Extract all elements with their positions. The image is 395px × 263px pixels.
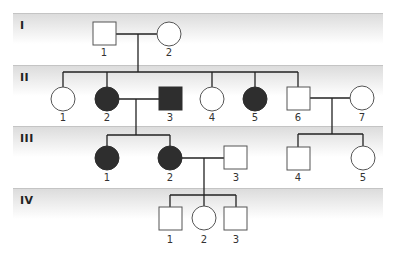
label-iv-3: 3 [226, 234, 246, 245]
individual-i-2-unaffected-female [157, 22, 181, 46]
label-ii-6: 6 [288, 112, 308, 123]
individual-iv-1-unaffected-male [159, 207, 182, 230]
individual-ii-1-unaffected-female [51, 87, 75, 111]
label-iii-5: 5 [353, 172, 373, 183]
label-iii-1: 1 [97, 172, 117, 183]
label-iii-4: 4 [288, 172, 308, 183]
label-iii-2: 2 [160, 172, 180, 183]
pedigree-chart [0, 0, 395, 263]
individual-iv-3-unaffected-male [224, 207, 247, 230]
individual-iii-1-affected-female [95, 146, 119, 170]
label-i-1: 1 [94, 47, 114, 58]
individual-iii-2-affected-female [158, 146, 182, 170]
label-ii-3: 3 [160, 112, 180, 123]
individual-ii-4-unaffected-female [200, 87, 224, 111]
individual-iv-2-unaffected-female [192, 206, 216, 230]
individual-iii-5-unaffected-female [351, 146, 375, 170]
label-ii-2: 2 [97, 112, 117, 123]
label-i-2: 2 [159, 47, 179, 58]
individual-i-1-unaffected-male [93, 22, 116, 45]
individual-ii-2-affected-female [95, 87, 119, 111]
label-ii-1: 1 [53, 112, 73, 123]
label-iii-3: 3 [226, 172, 246, 183]
individual-ii-5-affected-female [243, 87, 267, 111]
label-ii-4: 4 [202, 112, 222, 123]
label-iv-1: 1 [160, 234, 180, 245]
label-ii-7: 7 [352, 112, 372, 123]
individual-ii-7-unaffected-female [350, 86, 374, 110]
individual-iii-3-unaffected-male [224, 146, 247, 169]
individual-ii-3-affected-male [159, 87, 182, 110]
label-iv-2: 2 [194, 234, 214, 245]
label-ii-5: 5 [245, 112, 265, 123]
individual-ii-6-unaffected-male [287, 87, 310, 110]
individual-iii-4-unaffected-male [287, 147, 310, 170]
